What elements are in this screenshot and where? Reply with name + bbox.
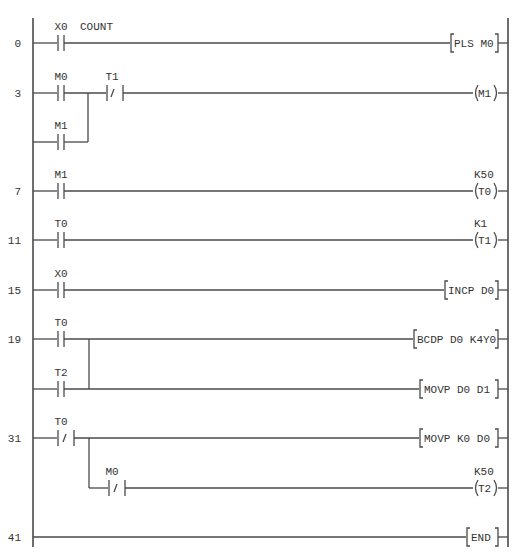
contact-label: M1 bbox=[54, 169, 68, 181]
timer-coil[interactable]: T2 bbox=[476, 480, 497, 496]
normally-open-contact-icon[interactable] bbox=[58, 381, 64, 397]
step-number: 41 bbox=[8, 532, 22, 544]
normally-closed-contact-icon[interactable] bbox=[109, 480, 125, 496]
normally-open-contact-icon[interactable] bbox=[58, 232, 64, 248]
coil-label: T1 bbox=[478, 235, 492, 247]
normally-open-contact-icon[interactable] bbox=[58, 282, 64, 298]
coil-label: T2 bbox=[478, 483, 491, 495]
end-instruction-box[interactable]: END bbox=[467, 528, 498, 546]
instruction-box[interactable]: BCDP D0 K4Y0 bbox=[414, 330, 498, 348]
rung-7: 7 M1 K50 T0 bbox=[14, 169, 508, 199]
rung-31: 31 T0 MOVP K0 D0 M0 K50 T2 bbox=[8, 416, 508, 496]
step-number: 7 bbox=[14, 186, 21, 198]
normally-open-contact-icon[interactable] bbox=[58, 331, 64, 347]
contact-label: T1 bbox=[105, 71, 119, 83]
instruction-text: PLS M0 bbox=[454, 38, 494, 50]
instruction-box[interactable]: PLS M0 bbox=[451, 34, 498, 52]
contact-label: T0 bbox=[54, 416, 67, 428]
instruction-text: END bbox=[471, 532, 491, 544]
timer-setting: K1 bbox=[474, 218, 488, 230]
coil-label: T0 bbox=[478, 186, 491, 198]
instruction-text: MOVP K0 D0 bbox=[424, 433, 490, 445]
ladder-diagram: 0 X0 COUNT PLS M0 3 M0 T1 bbox=[0, 0, 525, 556]
normally-open-contact-icon[interactable] bbox=[58, 183, 64, 199]
rung-3: 3 M0 T1 M1 M1 bbox=[14, 71, 508, 150]
instruction-text: BCDP D0 K4Y0 bbox=[417, 334, 496, 346]
rung-15: 15 X0 INCP D0 bbox=[8, 268, 508, 299]
contact-label: X0 bbox=[54, 21, 67, 33]
normally-closed-contact-icon[interactable] bbox=[58, 430, 74, 446]
timer-coil[interactable]: T0 bbox=[476, 183, 497, 199]
timer-setting: K50 bbox=[474, 466, 494, 478]
step-number: 11 bbox=[8, 235, 22, 247]
normally-open-contact-icon[interactable] bbox=[58, 134, 64, 150]
step-number: 3 bbox=[14, 88, 21, 100]
contact-label: M0 bbox=[105, 466, 118, 478]
coil-label: M1 bbox=[478, 88, 492, 100]
normally-closed-contact-icon[interactable] bbox=[107, 85, 123, 101]
contact-label: T0 bbox=[54, 218, 67, 230]
instruction-text: MOVP D0 D1 bbox=[424, 384, 490, 396]
normally-open-contact-icon[interactable] bbox=[58, 85, 64, 101]
contact-label: T2 bbox=[54, 367, 67, 379]
step-number: 15 bbox=[8, 285, 21, 297]
step-number: 0 bbox=[14, 38, 21, 50]
timer-setting: K50 bbox=[474, 169, 494, 181]
rung-41: 41 END bbox=[8, 528, 508, 546]
output-coil[interactable]: M1 bbox=[476, 85, 497, 101]
timer-coil[interactable]: T1 bbox=[476, 232, 497, 248]
instruction-box[interactable]: INCP D0 bbox=[445, 281, 498, 299]
step-number: 19 bbox=[8, 334, 21, 346]
device-comment: COUNT bbox=[80, 21, 113, 33]
contact-label: T0 bbox=[54, 317, 67, 329]
rung-11: 11 T0 K1 T1 bbox=[8, 218, 508, 248]
contact-label: M0 bbox=[54, 71, 67, 83]
contact-label: M1 bbox=[54, 120, 68, 132]
normally-open-contact-icon[interactable] bbox=[58, 35, 64, 51]
instruction-box[interactable]: MOVP K0 D0 bbox=[420, 429, 498, 447]
step-number: 31 bbox=[8, 433, 22, 445]
instruction-box[interactable]: MOVP D0 D1 bbox=[420, 380, 498, 398]
instruction-text: INCP D0 bbox=[448, 285, 494, 297]
contact-label: X0 bbox=[54, 268, 67, 280]
rung-0: 0 X0 COUNT PLS M0 bbox=[14, 21, 508, 52]
rung-19: 19 T0 BCDP D0 K4Y0 T2 MOVP D0 D1 bbox=[8, 317, 508, 398]
